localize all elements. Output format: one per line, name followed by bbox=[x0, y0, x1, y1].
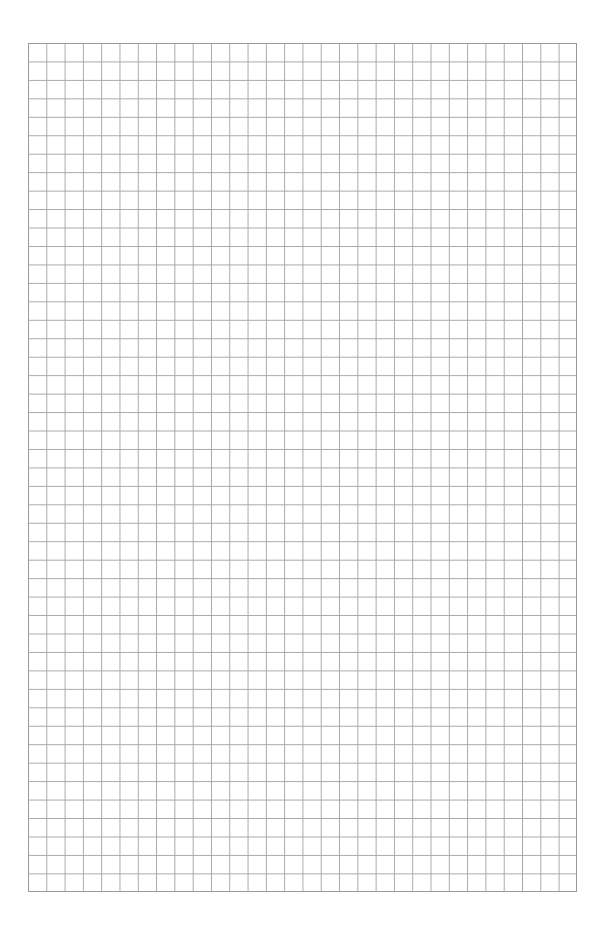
graph-paper-grid bbox=[28, 43, 577, 892]
